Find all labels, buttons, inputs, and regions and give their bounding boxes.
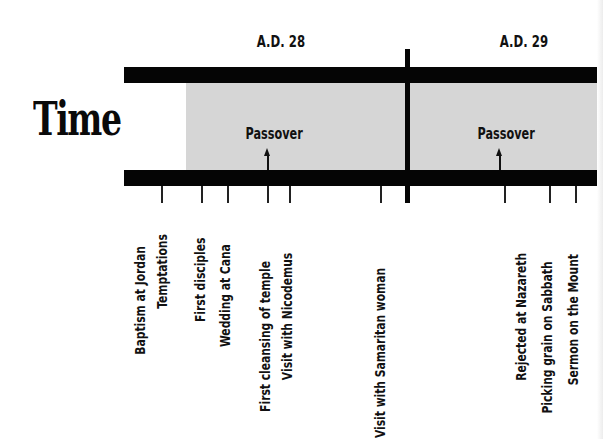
page-edge-shadow (597, 0, 603, 439)
event-label: Visit with Samaritan woman (373, 268, 388, 438)
event-label: Baptism at Jordan (133, 246, 148, 355)
timeline-diagram: Time A.D. 28 A.D. 29 Passover Passover B… (0, 0, 603, 439)
event-label: Rejected at Nazareth (514, 253, 529, 381)
event-label: First cleansing of temple (258, 261, 273, 412)
event-tick (504, 186, 506, 203)
event-tick (380, 186, 382, 203)
passover-arrow-icon (499, 155, 501, 170)
event-tick (575, 186, 577, 203)
timeline-top-bar (124, 67, 603, 83)
timeline-bottom-bar (124, 170, 603, 186)
event-label: Picking grain on Sabbath (540, 261, 555, 413)
event-tick (227, 186, 229, 203)
event-tick (267, 186, 269, 203)
year-label-ad29: A.D. 29 (500, 35, 548, 50)
diagram-title: Time (33, 96, 121, 142)
event-tick (549, 186, 551, 203)
event-label: Sermon on the Mount (566, 254, 581, 385)
passover-arrow-icon (267, 155, 269, 170)
event-label: Temptations (155, 234, 170, 309)
event-tick (289, 186, 291, 203)
year-label-ad28: A.D. 28 (257, 35, 305, 50)
passover-label-ad29: Passover (478, 127, 535, 142)
passover-label-ad28: Passover (246, 127, 303, 142)
event-label: First disciples (193, 238, 208, 322)
event-tick (161, 186, 163, 203)
event-label: Visit with Nicodemus (280, 253, 295, 380)
event-tick (201, 186, 203, 203)
event-label: Wedding at Cana (218, 244, 233, 347)
year-divider (405, 49, 410, 203)
